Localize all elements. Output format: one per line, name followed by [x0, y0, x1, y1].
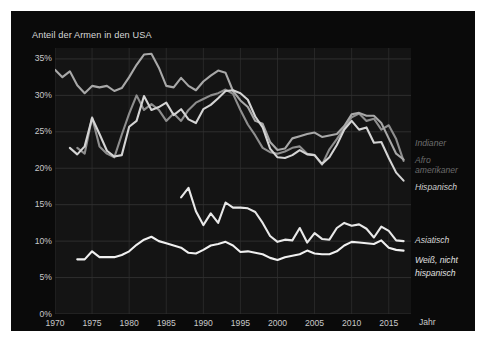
y-axis-tick-label: 25%: [35, 126, 52, 136]
x-axis-tick-label: 2015: [379, 318, 398, 328]
x-axis-tick-label: 1975: [83, 318, 102, 328]
chart-frame: Anteil der Armen in den USA 0%5%10%15%20…: [0, 0, 486, 342]
x-axis-tick-label: 1980: [120, 318, 139, 328]
legend-label: Afro: [415, 155, 431, 166]
y-axis-tick-label: 0%: [40, 309, 52, 319]
y-axis-tick-label: 15%: [35, 199, 52, 209]
x-axis-tick-label: 2005: [305, 318, 324, 328]
x-axis-tick-label: 2000: [268, 318, 287, 328]
legend-label: Weiß, nicht: [415, 255, 458, 266]
x-axis-tick-label: 1985: [157, 318, 176, 328]
y-axis-tick-label: 10%: [35, 236, 52, 246]
chart-panel: Anteil der Armen in den USA 0%5%10%15%20…: [11, 11, 475, 331]
legend-label: Hispanisch: [415, 182, 457, 193]
legend-label: Asiatisch: [415, 235, 449, 246]
x-axis-tick-label: 1970: [45, 318, 64, 328]
plot-area: [55, 48, 411, 314]
y-axis-tick-labels: 0%5%10%15%20%25%30%35%: [19, 48, 52, 314]
x-axis-tick-label: 1995: [231, 318, 250, 328]
legend-label: amerikaner: [415, 165, 458, 176]
y-axis-tick-label: 5%: [40, 272, 52, 282]
y-axis-tick-label: 30%: [35, 90, 52, 100]
x-axis-title: Jahr: [419, 317, 436, 327]
legend-label: hispanisch: [415, 268, 456, 279]
page-title: Anteil der Armen in den USA: [32, 30, 152, 40]
legend-label: Indianer: [415, 138, 446, 149]
y-axis-tick-label: 35%: [35, 53, 52, 63]
x-axis-tick-label: 2010: [342, 318, 361, 328]
y-axis-tick-label: 20%: [35, 163, 52, 173]
x-axis-tick-label: 1990: [194, 318, 213, 328]
x-axis-tick-labels: 1970197519801985199019952000200520102015: [55, 317, 411, 331]
series-canvas: [55, 48, 411, 314]
